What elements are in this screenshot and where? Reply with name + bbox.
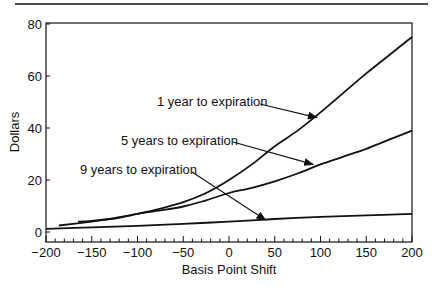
y-axis-ticks: 020406080 <box>28 17 50 240</box>
annotation-label-2: 5 years to expiration <box>121 133 238 148</box>
x-tick-label: 50 <box>268 245 282 260</box>
y-tick-label: 60 <box>28 69 42 84</box>
x-tick-label: 200 <box>401 245 423 260</box>
x-tick-label: −100 <box>123 245 152 260</box>
x-tick-label: −50 <box>172 245 194 260</box>
annotations: 1 year to expiration5 years to expiratio… <box>80 94 317 220</box>
x-tick-label: 150 <box>355 245 377 260</box>
x-tick-label: 100 <box>310 245 332 260</box>
x-tick-label: −200 <box>31 245 60 260</box>
annotation-arrow-2 <box>233 142 313 164</box>
line-chart: 020406080 −200−150−100−50050100150200 1 … <box>0 0 439 290</box>
series-line-3 <box>46 214 412 229</box>
y-axis-title: Dollars <box>7 111 22 152</box>
y-tick-label: 40 <box>28 121 42 136</box>
y-tick-label: 80 <box>28 17 42 32</box>
x-axis-title: Basis Point Shift <box>182 262 277 277</box>
annotation-label-1: 1 year to expiration <box>157 94 268 109</box>
y-tick-label: 0 <box>35 225 42 240</box>
series-line-1 <box>78 37 412 222</box>
annotation-arrow-1 <box>260 104 317 118</box>
x-axis-ticks: −200−150−100−50050100150200 <box>31 236 423 260</box>
x-tick-label: 0 <box>225 245 232 260</box>
y-tick-label: 20 <box>28 173 42 188</box>
x-tick-label: −150 <box>77 245 106 260</box>
annotation-label-3: 9 years to expiration <box>80 162 197 177</box>
